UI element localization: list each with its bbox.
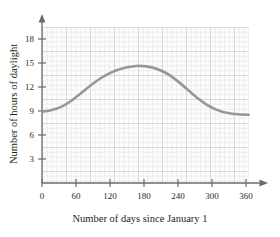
x-tick-label-120: 120: [95, 192, 125, 201]
x-tick-label-180: 180: [129, 192, 159, 201]
x-tick-label-360: 360: [231, 192, 261, 201]
daylight-hours-chart: 18 15 12 9 6 3 0 60 120 180 240 300 360 …: [0, 0, 280, 237]
y-axis-title: Number of hours of daylight: [8, 24, 20, 184]
x-axis-title: Number of days since January 1: [0, 213, 280, 225]
x-tick-label-60: 60: [61, 192, 91, 201]
x-tick-label-240: 240: [163, 192, 193, 201]
x-tick-label-300: 300: [197, 192, 227, 201]
daylight-curve: [43, 66, 249, 115]
chart-axes-and-curve: [0, 0, 280, 237]
x-tick-label-0: 0: [27, 192, 57, 201]
